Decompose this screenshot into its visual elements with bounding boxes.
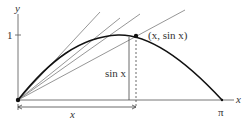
pi-label: π: [218, 106, 224, 118]
pi-marker: [221, 99, 223, 101]
point-label: (x, sin x): [148, 29, 188, 42]
y-tick-label: 1: [7, 29, 13, 41]
secant-lines: [18, 10, 185, 100]
sine-diagram: y 1 x π (x, sin x) sin x x: [0, 0, 244, 121]
height-label: sin x: [105, 67, 127, 79]
y-axis-label: y: [14, 2, 20, 14]
x-width-dimension: [18, 104, 136, 110]
width-label: x: [69, 108, 75, 120]
origin-marker: [16, 98, 20, 102]
point-marker: [134, 34, 138, 38]
x-axis-label: x: [235, 93, 241, 105]
